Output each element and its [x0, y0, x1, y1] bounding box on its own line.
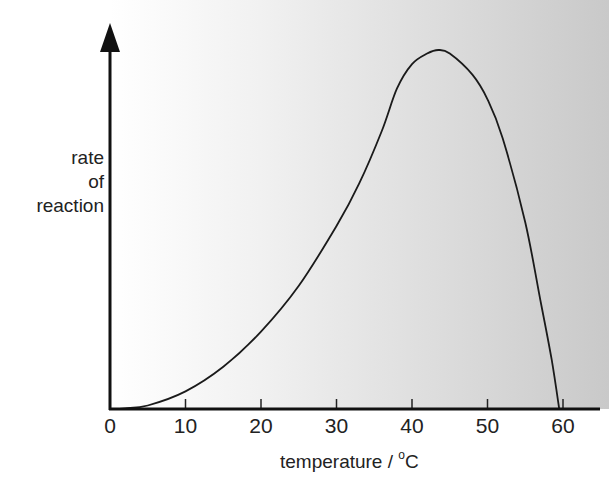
chart-canvas: [0, 0, 609, 479]
x-axis-label-text: temperature /: [280, 451, 398, 472]
x-tick-label: 50: [476, 414, 499, 438]
x-axis-label: temperature / oC: [280, 450, 419, 473]
x-tick-label: 30: [325, 414, 348, 438]
x-tick-label: 0: [104, 414, 116, 438]
y-axis-label-line: rate: [36, 146, 104, 170]
degree-symbol: o: [398, 448, 405, 462]
y-axis-label-line: reaction: [36, 194, 104, 218]
y-axis-label: rate of reaction: [36, 146, 104, 218]
x-axis-unit: C: [405, 451, 419, 472]
x-tick-label: 10: [174, 414, 197, 438]
x-tick-label: 60: [551, 414, 574, 438]
y-axis-label-line: of: [36, 170, 104, 194]
x-tick-label: 40: [400, 414, 423, 438]
plot-background: [110, 0, 609, 409]
x-tick-label: 20: [249, 414, 272, 438]
